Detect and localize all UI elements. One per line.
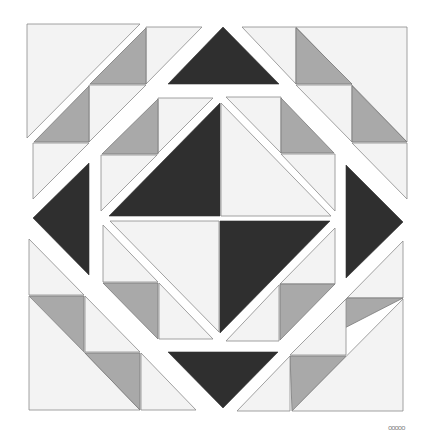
signature-mark: ooooo bbox=[388, 424, 404, 432]
quilt-block-diagram bbox=[0, 0, 426, 437]
